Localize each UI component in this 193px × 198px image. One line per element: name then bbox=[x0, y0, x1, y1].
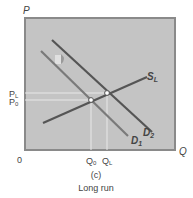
x-tick-q0: Q0 bbox=[86, 156, 97, 166]
x-axis-label: Q bbox=[179, 146, 187, 157]
caption-letter: (c) bbox=[91, 170, 102, 180]
equilibrium-point-initial bbox=[89, 98, 94, 103]
caption-subtitle: Long run bbox=[78, 183, 114, 193]
chart: P Q 0 PL P0 Q0 QL SL D2 D1 (c) Long run bbox=[0, 0, 193, 198]
x-tick-ql: QL bbox=[102, 156, 113, 166]
equilibrium-point-longrun bbox=[105, 91, 110, 96]
y-axis-label: P bbox=[23, 5, 30, 16]
origin-label: 0 bbox=[17, 155, 22, 165]
